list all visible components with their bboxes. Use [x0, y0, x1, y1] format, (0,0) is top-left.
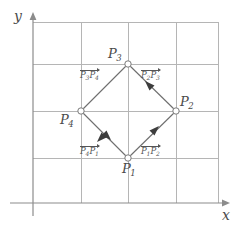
- point-label-p2-sub: 2: [188, 101, 193, 111]
- vector-overbar-p2-p3: P2P3: [141, 70, 160, 80]
- vector-label-p2-p3-to-sub: 3: [156, 74, 160, 81]
- vector-label-p1-p2: P1P2: [141, 146, 160, 156]
- vector-label-p1-p2-from-sub: 1: [146, 150, 150, 157]
- vector-label-p4-p1-from-sub: 4: [85, 150, 89, 157]
- point-label-p3-sub: 3: [116, 53, 121, 63]
- vector-arrow-overbar-icon: [141, 70, 160, 71]
- y-axis-label: y: [14, 9, 22, 23]
- vector-label-p3-p4-to-sub: 4: [95, 74, 99, 81]
- vector-label-p3-p4: P3P4: [80, 70, 99, 80]
- diagram-canvas: [0, 0, 242, 237]
- point-label-p1: P1: [122, 162, 136, 175]
- geometry-figure: y x P1 P2 P3 P4 P1P2 P2P3 P3P4 P4P1: [0, 0, 242, 237]
- vector-label-p4-p1-to-sub: 1: [95, 150, 99, 157]
- point-label-p2: P2: [180, 95, 194, 108]
- vector-overbar-p3-p4: P3P4: [80, 70, 99, 80]
- vector-arrow-overbar-icon: [80, 146, 99, 147]
- vertex-p4: [78, 108, 84, 114]
- point-label-p3: P3: [108, 47, 122, 60]
- arrow-right-icon: [222, 200, 230, 207]
- vector-arrow-overbar-icon: [141, 146, 160, 147]
- vector-label-p4-p1: P4P1: [80, 146, 99, 156]
- point-label-p4-sub: 4: [68, 119, 73, 129]
- point-label-p1-sub: 1: [130, 168, 135, 178]
- vertex-p2: [173, 108, 179, 114]
- axes: [10, 12, 230, 216]
- vector-label-p2-p3: P2P3: [141, 70, 160, 80]
- vector-label-p2-p3-from-sub: 2: [146, 74, 150, 81]
- vector-overbar-p1-p2: P1P2: [141, 146, 160, 156]
- vertex-p3: [125, 61, 131, 67]
- vector-overbar-p4-p1: P4P1: [80, 146, 99, 156]
- arrowhead-p1-p2: [150, 126, 160, 136]
- vector-label-p1-p2-to-sub: 2: [156, 150, 160, 157]
- vector-arrow-overbar-icon: [80, 70, 99, 71]
- vector-label-p3-p4-from-sub: 3: [85, 74, 89, 81]
- x-axis-label: x: [222, 208, 230, 222]
- arrow-up-icon: [30, 12, 37, 20]
- point-label-p4: P4: [60, 113, 74, 126]
